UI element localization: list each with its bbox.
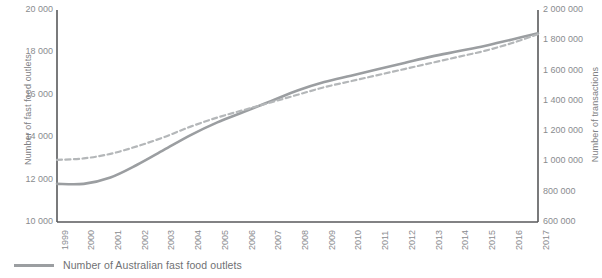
legend-item-label: Number of Australian fast food outlets (63, 259, 242, 271)
x-tick-label: 2010 (354, 230, 363, 250)
series-layer (57, 33, 538, 184)
x-tick-label: 1999 (61, 230, 70, 250)
left-tick-label: 20 000 (7, 5, 53, 14)
right-tick-label: 600 000 (543, 217, 576, 226)
x-tick-label: 2005 (221, 230, 230, 250)
x-tick-label: 2007 (274, 230, 283, 250)
x-tick-label: 2009 (328, 230, 337, 250)
x-tick-label: 2017 (542, 230, 551, 250)
right-tick-label: 1 400 000 (543, 96, 583, 105)
x-tick-label: 2002 (141, 230, 150, 250)
x-tick-label: 2004 (194, 230, 203, 250)
x-tick-label: 2006 (248, 230, 257, 250)
right-tick-label: 2 000 000 (543, 5, 583, 14)
x-tick-label: 2011 (381, 231, 390, 250)
left-tick-label: 10 000 (7, 217, 53, 226)
x-tick-label: 2016 (515, 230, 524, 250)
chart-container: Number of fast food outlets Number of tr… (0, 0, 602, 278)
x-tick-label: 2000 (87, 230, 96, 250)
left-tick-label: 18 000 (7, 47, 53, 56)
right-axis-title: Number of transactions (591, 35, 600, 195)
right-tick-label: 800 000 (543, 187, 576, 196)
right-tick-label: 1 000 000 (543, 156, 583, 165)
left-tick-label: 16 000 (7, 90, 53, 99)
left-tick-label: 14 000 (7, 132, 53, 141)
right-tick-label: 1 600 000 (543, 66, 583, 75)
x-tick-label: 2003 (167, 230, 176, 250)
legend-line-swatch-solid (14, 264, 54, 267)
x-tick-label: 2012 (408, 230, 417, 250)
x-tick-label: 2008 (301, 230, 310, 250)
x-tick-label: 2015 (488, 230, 497, 250)
x-tick-label: 2013 (435, 230, 444, 250)
axis-lines (57, 10, 538, 222)
right-tick-label: 1 200 000 (543, 126, 583, 135)
left-tick-label: 12 000 (7, 175, 53, 184)
x-tick-label: 2014 (461, 230, 470, 250)
series-line-1 (57, 33, 538, 184)
right-tick-label: 1 800 000 (543, 35, 583, 44)
series-line-2 (57, 34, 538, 160)
legend: Number of Australian fast food outlets (14, 259, 242, 271)
x-tick-label: 2001 (114, 230, 123, 250)
